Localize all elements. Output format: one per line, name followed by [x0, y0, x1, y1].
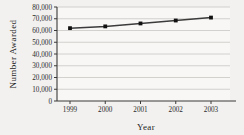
data-point-marker: [139, 22, 143, 26]
x-axis-tick-label: 2001: [133, 106, 148, 114]
data-point-marker: [103, 24, 107, 28]
y-axis-tick-label: 80,000: [32, 4, 52, 12]
y-axis-tick-label: 70,000: [32, 15, 52, 23]
y-axis-tick-label: 10,000: [32, 86, 52, 94]
x-axis-tick-label: 1999: [63, 106, 78, 114]
y-axis-tick-label: 20,000: [32, 74, 52, 82]
line-chart: 010,00020,00030,00040,00050,00060,00070,…: [0, 0, 244, 135]
y-axis-tick-label: 40,000: [32, 51, 52, 59]
chart-container: 010,00020,00030,00040,00050,00060,00070,…: [0, 0, 244, 135]
y-axis-tick-label: 30,000: [32, 62, 52, 70]
y-axis-tick-label: 50,000: [32, 39, 52, 47]
y-axis-tick-label: 0: [48, 98, 52, 106]
y-axis-title: Number Awarded: [8, 19, 18, 88]
x-axis-tick-label: 2002: [169, 106, 184, 114]
y-axis-tick-label: 60,000: [32, 27, 52, 35]
y-axis-tick-labels: 010,00020,00030,00040,00050,00060,00070,…: [32, 4, 52, 106]
x-axis-tick-label: 2003: [204, 106, 219, 114]
data-point-marker: [68, 26, 72, 30]
data-point-marker: [209, 16, 213, 20]
x-axis-tick-label: 2000: [98, 106, 113, 114]
x-axis-title: Year: [137, 122, 155, 132]
data-point-marker: [174, 19, 178, 23]
